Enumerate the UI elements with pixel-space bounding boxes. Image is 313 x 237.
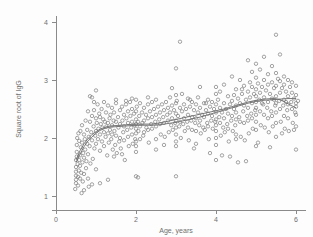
data-point	[123, 158, 126, 161]
data-point	[90, 131, 93, 134]
data-point	[182, 103, 185, 106]
data-point	[88, 144, 91, 147]
data-point	[271, 125, 274, 128]
data-point	[247, 132, 250, 135]
data-point	[292, 128, 295, 131]
data-point	[290, 91, 293, 94]
data-point	[102, 131, 105, 134]
data-point	[106, 178, 109, 181]
data-point	[129, 114, 132, 117]
data-point	[268, 146, 271, 149]
y-tick-label-3: 3	[44, 77, 48, 84]
data-point	[106, 132, 109, 135]
data-point	[222, 102, 225, 105]
data-point	[168, 111, 171, 114]
data-point	[144, 113, 147, 116]
data-point	[174, 67, 177, 70]
data-point	[96, 103, 99, 106]
data-point	[240, 92, 243, 95]
data-point	[183, 129, 186, 132]
data-point	[274, 111, 277, 114]
data-point	[198, 119, 201, 122]
data-point	[170, 86, 173, 89]
data-point	[248, 96, 251, 99]
data-point	[82, 133, 85, 136]
data-point	[134, 150, 137, 153]
data-point	[178, 40, 181, 43]
data-point	[96, 137, 99, 140]
data-point	[254, 76, 257, 79]
data-point	[206, 125, 209, 128]
data-point	[214, 129, 217, 132]
data-point	[246, 106, 249, 109]
x-tick-label-2: 2	[134, 216, 138, 223]
data-point	[266, 106, 269, 109]
data-point	[231, 129, 234, 132]
data-point	[130, 133, 133, 136]
data-point	[258, 91, 261, 94]
data-point	[170, 104, 173, 107]
data-point	[214, 143, 217, 146]
data-point	[218, 121, 221, 124]
data-point	[208, 151, 211, 154]
data-point	[207, 137, 210, 140]
data-point	[242, 121, 245, 124]
data-point	[278, 91, 281, 94]
data-point	[218, 115, 221, 118]
data-point	[258, 68, 261, 71]
data-point	[124, 103, 127, 106]
data-point	[250, 85, 253, 88]
data-point	[244, 160, 247, 163]
data-point	[106, 104, 109, 107]
data-point	[104, 111, 107, 114]
data-point	[94, 117, 97, 120]
data-point	[214, 136, 217, 139]
data-point	[84, 166, 87, 169]
data-point	[75, 143, 78, 146]
data-point	[142, 134, 145, 137]
data-point	[130, 120, 133, 123]
data-point	[274, 84, 277, 87]
data-point	[262, 78, 265, 81]
data-point	[150, 100, 153, 103]
data-point	[98, 133, 101, 136]
data-point	[223, 131, 226, 134]
data-point	[270, 110, 273, 113]
data-point	[154, 148, 157, 151]
data-point	[250, 117, 253, 120]
data-point	[89, 162, 92, 165]
data-point	[243, 139, 246, 142]
data-point	[171, 128, 174, 131]
data-point	[226, 127, 229, 130]
smooth-fit-2	[76, 99, 296, 160]
data-point	[99, 122, 102, 125]
data-point	[163, 135, 166, 138]
data-point	[74, 187, 77, 190]
data-point	[164, 100, 167, 103]
data-point	[94, 168, 97, 171]
data-point	[162, 108, 165, 111]
data-point	[188, 105, 191, 108]
data-point	[93, 147, 96, 150]
data-point	[127, 144, 130, 147]
data-point	[174, 133, 177, 136]
data-point	[254, 88, 257, 91]
y-tick-label-1: 1	[44, 193, 48, 200]
data-point	[206, 121, 209, 124]
data-point	[92, 108, 95, 111]
data-point	[172, 108, 175, 111]
data-point	[98, 112, 101, 115]
data-point	[246, 119, 249, 122]
data-point	[282, 83, 285, 86]
data-point	[262, 113, 265, 116]
data-point	[138, 102, 141, 105]
data-point	[296, 99, 299, 102]
data-point	[228, 155, 231, 158]
data-point	[128, 100, 131, 103]
data-point	[258, 110, 261, 113]
data-point	[282, 104, 285, 107]
scatter-plot-figure: 12340246Age, yearsSquare root of IgG	[0, 0, 313, 237]
data-point	[239, 135, 242, 138]
data-point	[100, 107, 103, 110]
data-point	[108, 117, 111, 120]
